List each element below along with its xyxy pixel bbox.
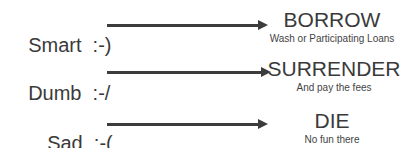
outcome-detail: No fun there (282, 134, 382, 146)
row-smart-label: Smart :-) (17, 15, 111, 55)
emoticon-text: :-( (94, 132, 113, 148)
outcome-title: SURRENDER (266, 58, 402, 79)
mood-text: Dumb (28, 82, 81, 104)
arrow-icon (107, 24, 259, 27)
outcome-title: DIE (282, 110, 382, 131)
outcome-title: BORROW (262, 9, 402, 30)
outcome-die: DIE No fun there (282, 110, 382, 146)
arrow-icon (107, 123, 259, 126)
outcome-detail: And pay the fees (266, 82, 402, 94)
mood-text: Smart (28, 34, 81, 56)
row-sad-label: Sad :-( (36, 113, 113, 148)
row-dumb-label: Dumb :-/ (17, 63, 110, 103)
emoticon-text: :-) (93, 34, 112, 56)
outcome-detail: Wash or Participating Loans (262, 33, 402, 45)
mood-text: Sad (47, 132, 83, 148)
outcome-borrow: BORROW Wash or Participating Loans (262, 9, 402, 45)
outcome-surrender: SURRENDER And pay the fees (266, 58, 402, 94)
emoticon-text: :-/ (93, 82, 111, 104)
arrow-icon (107, 71, 262, 74)
